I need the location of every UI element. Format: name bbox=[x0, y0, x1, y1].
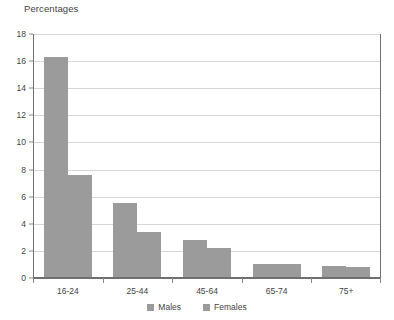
bar-females-65-74 bbox=[277, 264, 301, 277]
chart-legend: MalesFemales bbox=[0, 298, 394, 316]
legend-item-females[interactable]: Females bbox=[203, 302, 247, 312]
x-tick-label-45-64: 45-64 bbox=[196, 286, 218, 296]
x-tick-mark-1 bbox=[103, 278, 104, 283]
legend-label-females: Females bbox=[214, 302, 247, 312]
bar-males-75+ bbox=[322, 266, 346, 277]
legend-swatch-icon-females bbox=[203, 304, 210, 311]
bar-males-25-44 bbox=[113, 203, 137, 277]
bar-males-45-64 bbox=[183, 240, 207, 277]
legend-item-males[interactable]: Males bbox=[147, 302, 181, 312]
x-tick-label-25-44: 25-44 bbox=[127, 286, 149, 296]
x-tick-label-65-74: 65-74 bbox=[266, 286, 288, 296]
x-tick-label-16-24: 16-24 bbox=[57, 286, 79, 296]
x-axis: 16-2425-4445-6465-7475+ bbox=[33, 278, 381, 300]
bar-females-45-64 bbox=[207, 248, 231, 277]
y-tick-label-16: 16 bbox=[17, 56, 26, 66]
y-tick-label-4: 4 bbox=[21, 219, 26, 229]
x-tick-mark-0 bbox=[33, 278, 34, 283]
y-tick-label-8: 8 bbox=[21, 165, 26, 175]
y-tick-label-10: 10 bbox=[17, 137, 26, 147]
bars-layer bbox=[33, 34, 381, 278]
y-tick-label-18: 18 bbox=[17, 29, 26, 39]
y-tick-label-2: 2 bbox=[21, 246, 26, 256]
bar-females-25-44 bbox=[137, 232, 161, 277]
legend-swatch-icon-males bbox=[147, 304, 154, 311]
bar-chart-figure: Percentages 024681012141618 16-2425-4445… bbox=[0, 0, 394, 320]
bar-males-65-74 bbox=[253, 264, 277, 277]
chart-title: Percentages bbox=[24, 3, 78, 14]
legend-label-males: Males bbox=[158, 302, 181, 312]
bar-females-16-24 bbox=[68, 175, 92, 277]
x-tick-mark-2 bbox=[172, 278, 173, 283]
y-tick-label-6: 6 bbox=[21, 192, 26, 202]
y-tick-label-0: 0 bbox=[21, 273, 26, 283]
y-tick-label-14: 14 bbox=[17, 83, 26, 93]
bar-females-75+ bbox=[346, 267, 370, 277]
y-tick-label-12: 12 bbox=[17, 110, 26, 120]
x-tick-mark-3 bbox=[242, 278, 243, 283]
x-tick-mark-4 bbox=[311, 278, 312, 283]
bar-males-16-24 bbox=[44, 57, 68, 277]
y-axis: 024681012141618 bbox=[0, 34, 33, 278]
x-tick-label-75+: 75+ bbox=[339, 286, 353, 296]
x-tick-mark-5 bbox=[380, 278, 381, 283]
